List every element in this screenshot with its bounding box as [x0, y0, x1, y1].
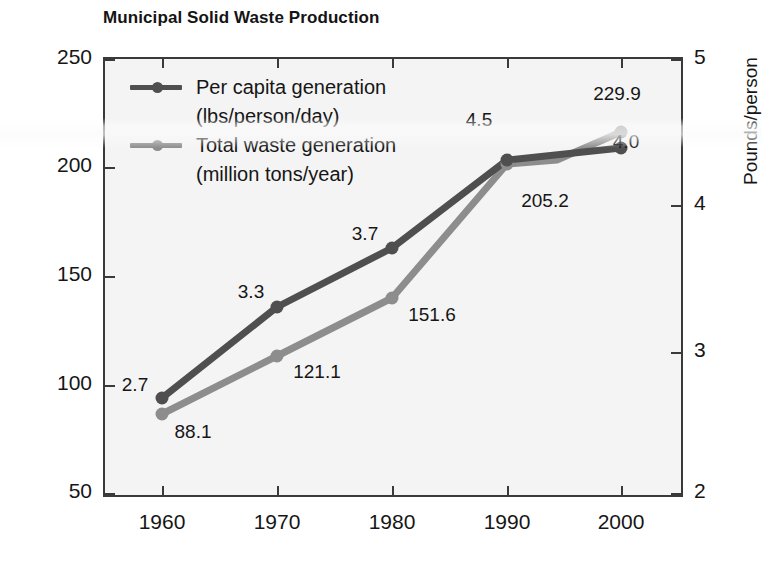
data-label-total-waste-1960: 88.1: [175, 421, 212, 443]
tick-mark-left-50: [104, 493, 115, 495]
tick-label-right-5: 5: [694, 45, 706, 69]
tick-mark-x-bottom-1960: [162, 486, 164, 496]
tick-mark-x-1960: [162, 58, 164, 68]
data-label-total-waste-1990: 205.2: [521, 190, 569, 212]
data-label-per-capita-1970: 3.3: [238, 281, 264, 303]
tick-mark-left-250: [104, 59, 115, 61]
legend-sublabel-row-per-capita: (lbs/person/day): [130, 103, 430, 132]
legend-sublabel-per-capita: (lbs/person/day): [196, 103, 339, 130]
tick-label-left-50: 50: [69, 479, 92, 503]
tick-mark-x-1970: [277, 58, 279, 68]
legend-entry-total-waste: Total waste generation: [130, 132, 430, 161]
data-label-per-capita-1990: 4.5: [466, 109, 492, 131]
tick-mark-x-2000: [621, 58, 623, 68]
data-label-per-capita-1960: 2.7: [122, 374, 148, 396]
tick-mark-right-2: [671, 493, 682, 495]
tick-label-left-150: 150: [57, 262, 92, 286]
tick-mark-right-5: [671, 59, 682, 61]
tick-mark-left-100: [104, 385, 115, 387]
tick-mark-x-bottom-2000: [621, 486, 623, 496]
legend-sublabel-row-total-waste: (million tons/year): [130, 161, 430, 190]
tick-mark-right-3: [671, 352, 682, 354]
data-label-per-capita-1980: 3.7: [352, 223, 378, 245]
tick-label-x-1990: 1990: [484, 510, 531, 534]
tick-mark-x-bottom-1980: [392, 486, 394, 496]
tick-mark-left-200: [104, 167, 115, 169]
data-label-total-waste-1980: 151.6: [408, 304, 456, 326]
chart-legend: Per capita generation (lbs/person/day) T…: [130, 74, 430, 190]
chart-title: Municipal Solid Waste Production: [103, 8, 379, 28]
legend-label-per-capita: Per capita generation: [196, 74, 386, 101]
tick-mark-left-150: [104, 276, 115, 278]
data-label-total-waste-1970: 121.1: [293, 361, 341, 383]
tick-label-x-1980: 1980: [369, 510, 416, 534]
tick-mark-x-bottom-1970: [277, 486, 279, 496]
tick-label-left-100: 100: [57, 371, 92, 395]
data-label-total-waste-2000: 229.9: [593, 83, 641, 105]
tick-label-right-2: 2: [694, 479, 706, 503]
chart-figure: Municipal Solid Waste Production: [0, 0, 762, 567]
tick-label-left-250: 250: [57, 45, 92, 69]
tick-mark-x-1990: [507, 58, 509, 68]
tick-mark-x-1980: [392, 58, 394, 68]
tick-label-right-3: 3: [694, 338, 706, 362]
tick-mark-x-bottom-1990: [507, 486, 509, 496]
tick-mark-right-4: [671, 205, 682, 207]
plot-area: 2.7 3.3 3.7 4.5 4.0 88.1 121.1 151.6 205…: [103, 57, 683, 497]
tick-label-left-200: 200: [57, 153, 92, 177]
tick-label-x-1970: 1970: [254, 510, 301, 534]
data-label-per-capita-2000: 4.0: [613, 131, 639, 153]
legend-dot-icon-total-waste: [152, 140, 163, 151]
y-axis-label-right: Pounds/person: [740, 57, 762, 185]
legend-dot-icon-per-capita: [152, 82, 163, 93]
legend-entry-per-capita: Per capita generation: [130, 74, 430, 103]
legend-label-total-waste: Total waste generation: [196, 132, 396, 159]
tick-label-x-2000: 2000: [598, 510, 645, 534]
tick-label-right-4: 4: [694, 191, 706, 215]
tick-label-x-1960: 1960: [139, 510, 186, 534]
legend-sublabel-total-waste: (million tons/year): [196, 161, 354, 188]
